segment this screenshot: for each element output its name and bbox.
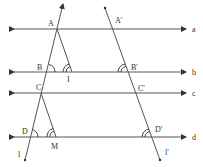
angle-arc-D-prime-inner xyxy=(145,132,150,138)
transversal-l-prime-bottom xyxy=(159,159,162,162)
label-M: M xyxy=(51,142,58,151)
label-line-d: d xyxy=(192,133,196,142)
line-labels: a b c d l l' xyxy=(18,25,196,159)
label-I: I xyxy=(67,75,70,84)
angle-arc-B xyxy=(49,65,55,73)
label-C: C xyxy=(36,83,41,92)
label-A: A xyxy=(48,19,54,28)
label-B-prime: B' xyxy=(131,63,138,72)
label-line-b: b xyxy=(192,68,196,77)
transversal-l-prime-top xyxy=(104,7,107,10)
angle-arc-I-inner xyxy=(66,67,70,73)
angle-marks xyxy=(32,64,150,137)
angle-arc-B-prime-inner xyxy=(121,67,126,73)
label-line-c: c xyxy=(192,89,196,98)
point-labels: A B I C D M A' B' C' D' xyxy=(22,16,163,151)
transversals xyxy=(24,4,162,161)
segment-AI xyxy=(57,29,72,72)
label-D: D xyxy=(22,127,28,136)
transversal-l-endpoint xyxy=(24,159,26,161)
label-A-prime: A' xyxy=(115,16,123,25)
label-C-prime: C' xyxy=(138,84,145,93)
geometry-diagram: A B I C D M A' B' C' D' a b c d l l' xyxy=(0,0,203,167)
label-transversal-l-prime: l' xyxy=(165,148,169,157)
segment-CM xyxy=(41,93,56,137)
label-D-prime: D' xyxy=(155,125,163,134)
label-line-a: a xyxy=(192,25,196,34)
label-B: B xyxy=(37,63,42,72)
angle-arc-M-inner xyxy=(50,131,54,137)
label-transversal-l: l xyxy=(18,150,21,159)
angle-arc-D xyxy=(32,130,38,138)
